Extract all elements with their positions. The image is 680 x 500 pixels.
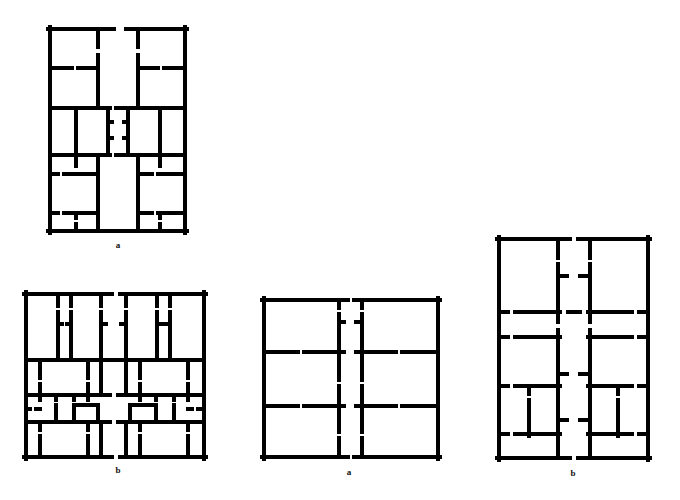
floor-plans-figure xyxy=(0,0,680,500)
plan-label-2b: b xyxy=(570,469,575,478)
plan-label-2a: a xyxy=(347,468,352,477)
plan-label-1b: b xyxy=(115,466,120,475)
plan-label-1a: a xyxy=(116,241,121,250)
